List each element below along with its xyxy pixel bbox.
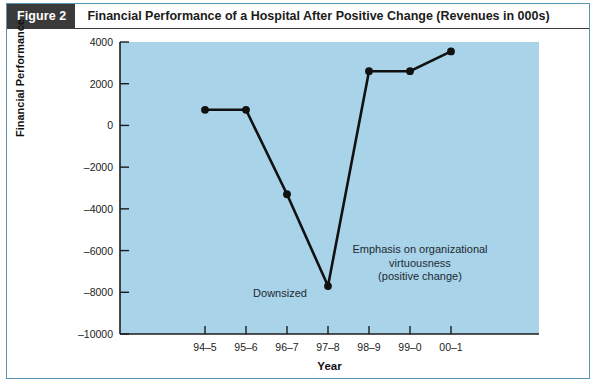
data-point-marker <box>283 190 291 198</box>
x-axis-tick-labels: 94–595–696–797–898–999–000–1 <box>120 341 539 357</box>
y-tick-label: –2000 <box>84 161 113 173</box>
data-point-marker <box>324 282 332 290</box>
data-point-marker <box>242 106 250 114</box>
x-tick-label: 96–7 <box>275 341 298 353</box>
y-axis-tick-labels: 400020000–2000–4000–6000–8000–10000 <box>39 29 113 378</box>
y-tick-label: –6000 <box>84 245 113 257</box>
y-tick-label: –8000 <box>84 286 113 298</box>
y-axis-title: Financial Performance <box>14 19 26 137</box>
x-tick-label: 94–5 <box>193 341 216 353</box>
data-point-marker <box>365 67 373 75</box>
x-tick-label: 00–1 <box>439 341 462 353</box>
figure-title: Financial Performance of a Hospital Afte… <box>75 4 549 28</box>
annotation-line: Downsized <box>253 287 307 301</box>
annotation-line: Emphasis on organizational <box>352 243 487 257</box>
y-tick-label: –10000 <box>78 328 113 340</box>
data-point-marker <box>201 106 209 114</box>
x-axis-title: Year <box>120 360 539 372</box>
y-tick-label: 0 <box>107 119 113 131</box>
data-point-marker <box>447 47 455 55</box>
figure-header: Figure 2 Financial Performance of a Hosp… <box>7 4 589 29</box>
annotation-virtuousness: Emphasis on organizationalvirtuousness(p… <box>352 243 487 284</box>
chart-area: 400020000–2000–4000–6000–8000–10000 94–5… <box>7 29 589 378</box>
x-tick-label: 95–6 <box>234 341 257 353</box>
y-tick-label: 4000 <box>90 36 113 48</box>
y-tick-label: –4000 <box>84 203 113 215</box>
annotation-line: (positive change) <box>352 270 487 284</box>
figure-frame: Figure 2 Financial Performance of a Hosp… <box>6 3 590 379</box>
x-tick-label: 97–8 <box>316 341 339 353</box>
y-tick-label: 2000 <box>90 78 113 90</box>
annotation-line: virtuousness <box>352 257 487 271</box>
x-tick-label: 98–9 <box>357 341 380 353</box>
annotation-downsized: Downsized <box>253 287 307 301</box>
x-tick-label: 99–0 <box>398 341 421 353</box>
data-point-marker <box>406 67 414 75</box>
